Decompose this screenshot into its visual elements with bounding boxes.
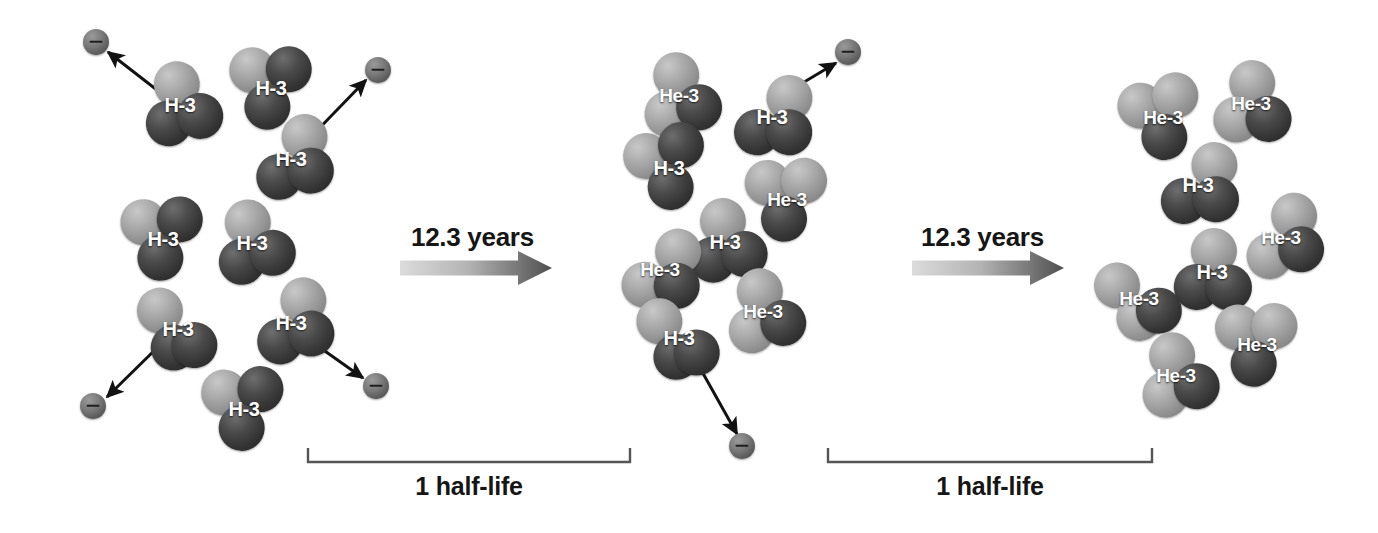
- nucleus-h3: H-3: [113, 191, 212, 287]
- nucleus-h3: H-3: [130, 56, 231, 153]
- minus-sign-icon: [370, 385, 383, 387]
- nucleus-he3: He-3: [1201, 55, 1302, 152]
- decay-diagram: H-3H-3H-3H-3H-3H-3H-3H-3He-3H-3H-3He-3H-…: [0, 0, 1378, 533]
- minus-sign-icon: [736, 445, 749, 447]
- nucleus-he3: He-3: [713, 263, 814, 360]
- electron-particle: [835, 39, 861, 65]
- nucleus-h3: H-3: [242, 112, 340, 206]
- minus-sign-icon: [87, 405, 100, 407]
- electron-particle: [83, 29, 109, 55]
- half-life-bracket: [308, 448, 630, 462]
- nucleus-h3: H-3: [629, 290, 728, 386]
- half-life-label: 1 half-life: [936, 472, 1044, 501]
- electron-particle: [80, 393, 106, 419]
- nucleus-he3: He-3: [1124, 326, 1227, 426]
- transition-arrow: [912, 251, 1064, 285]
- half-life-bracket: [828, 448, 1152, 462]
- nucleus-h3: H-3: [721, 68, 823, 167]
- minus-sign-icon: [842, 51, 855, 53]
- nucleus-h3: H-3: [195, 362, 293, 456]
- half-life-label: 1 half-life: [415, 472, 523, 501]
- nucleus-h3: H-3: [240, 274, 342, 373]
- minus-sign-icon: [90, 41, 103, 43]
- minus-sign-icon: [372, 69, 385, 71]
- electron-particle: [363, 373, 389, 399]
- transition-arrow: [400, 251, 552, 285]
- transition-duration-label: 12.3 years: [921, 222, 1044, 253]
- electron-particle: [729, 433, 755, 459]
- transition-duration-label: 12.3 years: [411, 222, 534, 253]
- electron-particle: [365, 57, 391, 83]
